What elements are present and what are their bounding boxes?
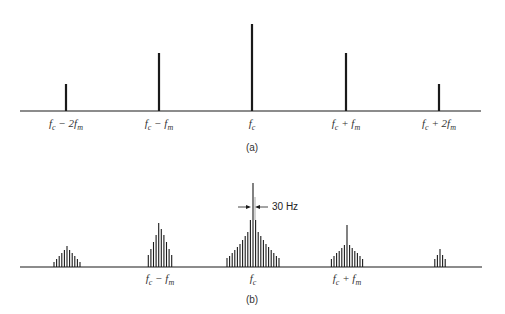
frequency-label: fc <box>250 272 257 287</box>
caption-a: (a) <box>246 142 258 153</box>
frequency-label: fc − 2fm <box>49 117 83 132</box>
frequency-label: fc + fm <box>333 272 361 287</box>
frequency-label: fc + 2fm <box>422 117 456 132</box>
frequency-label: fc − fm <box>146 272 174 287</box>
frequency-label: fc − fm <box>145 117 173 132</box>
caption-b: (b) <box>246 294 258 305</box>
frequency-label: fc + fm <box>332 117 360 132</box>
spectrum-figure <box>0 0 505 314</box>
arrowhead-icon <box>255 205 260 209</box>
spacing-annotation: 30 Hz <box>272 201 298 212</box>
arrowhead-icon <box>246 205 251 209</box>
frequency-label: fc <box>249 117 256 132</box>
